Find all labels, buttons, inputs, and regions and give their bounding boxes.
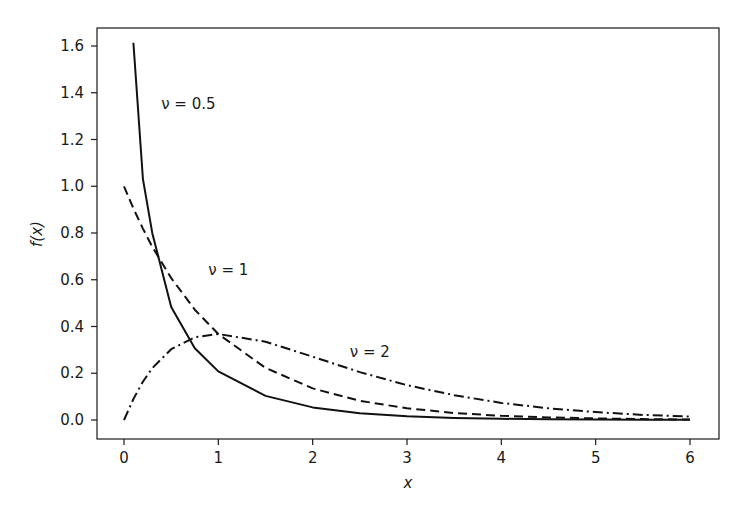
y-tick-label: 1.4 — [60, 84, 84, 102]
y-tick-label: 0.4 — [60, 318, 84, 336]
y-tick-label: 1.6 — [60, 37, 84, 55]
x-tick-label: 0 — [119, 449, 129, 467]
x-tick-label: 5 — [591, 449, 601, 467]
x-axis-ticks: 0123456 — [119, 439, 695, 467]
x-axis-label: x — [403, 474, 413, 492]
y-tick-label: 1.2 — [60, 131, 84, 149]
axes-frame — [97, 28, 719, 439]
y-tick-label: 0.6 — [60, 271, 84, 289]
series-line-2 — [124, 334, 690, 420]
y-tick-label: 0.0 — [60, 411, 84, 429]
y-tick-label: 0.2 — [60, 364, 84, 382]
x-tick-label: 6 — [685, 449, 695, 467]
y-axis-ticks: 0.00.20.40.60.81.01.21.41.6 — [60, 37, 97, 429]
annotations: ν = 0.5ν = 1ν = 2 — [161, 95, 390, 361]
curve-annotation: ν = 2 — [350, 343, 390, 361]
x-tick-label: 3 — [402, 449, 412, 467]
y-tick-label: 1.0 — [60, 177, 84, 195]
y-tick-label: 0.8 — [60, 224, 84, 242]
curve-annotation: ν = 0.5 — [161, 95, 215, 113]
curve-annotation: ν = 1 — [208, 261, 248, 279]
x-tick-label: 1 — [214, 449, 224, 467]
series-line-1 — [124, 186, 690, 419]
chart: ν = 0.5ν = 1ν = 2 0123456 0.00.20.40.60.… — [0, 0, 743, 518]
y-axis-label: f(x) — [28, 221, 46, 247]
series-line-0 — [133, 43, 690, 420]
x-tick-label: 2 — [308, 449, 318, 467]
x-tick-label: 4 — [497, 449, 507, 467]
